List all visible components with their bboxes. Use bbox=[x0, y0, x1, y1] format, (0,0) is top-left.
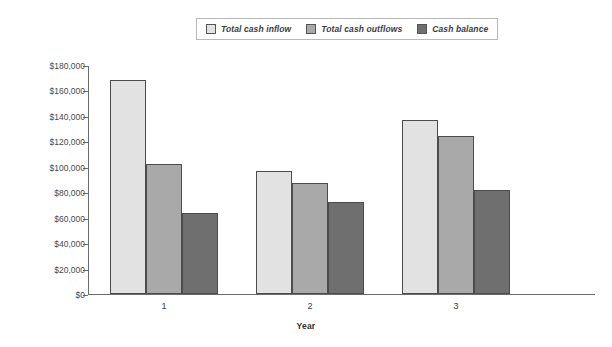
y-axis-tick-label: $60,000 bbox=[54, 214, 85, 224]
bar-series-0-year-1[interactable] bbox=[110, 80, 146, 294]
legend-swatch-icon-series-0 bbox=[206, 24, 216, 34]
y-axis-tick-label: $40,000 bbox=[54, 239, 85, 249]
legend-swatch-icon-series-1 bbox=[306, 24, 316, 34]
bar-group-year-3 bbox=[402, 63, 510, 294]
y-axis-tick-label: $80,000 bbox=[54, 188, 85, 198]
chart-legend: Total cash inflow Total cash outflows Ca… bbox=[196, 18, 498, 40]
y-axis-tick-label: $160,000 bbox=[50, 86, 85, 96]
legend-label-series-0: Total cash inflow bbox=[221, 24, 291, 34]
legend-item-total-cash-outflows: Total cash outflows bbox=[306, 24, 402, 34]
y-axis-tick-label: $180,000 bbox=[50, 61, 85, 71]
plot-area: $180,000$160,000$140,000$120,000$100,000… bbox=[88, 62, 595, 295]
y-axis-tick-label: $0 bbox=[76, 290, 85, 300]
bar-chart: Total cash inflow Total cash outflows Ca… bbox=[0, 0, 612, 347]
y-axis-tick-label: $120,000 bbox=[50, 137, 85, 147]
bar-series-2-year-1[interactable] bbox=[182, 213, 218, 294]
x-axis-tick-label-3: 3 bbox=[401, 301, 511, 311]
x-axis-tick-label-2: 2 bbox=[255, 301, 365, 311]
bar-series-0-year-2[interactable] bbox=[256, 171, 292, 294]
y-axis-line bbox=[88, 66, 89, 295]
x-axis-title: Year bbox=[0, 321, 612, 331]
legend-label-series-2: Cash balance bbox=[432, 24, 488, 34]
y-axis-tick-label: $100,000 bbox=[50, 163, 85, 173]
legend-label-series-1: Total cash outflows bbox=[321, 24, 402, 34]
bar-group-year-1 bbox=[110, 63, 218, 294]
bar-series-2-year-2[interactable] bbox=[328, 202, 364, 294]
y-axis-tick-label: $20,000 bbox=[54, 265, 85, 275]
legend-item-total-cash-inflow: Total cash inflow bbox=[206, 24, 291, 34]
x-axis-line bbox=[88, 294, 595, 295]
bar-group-year-2 bbox=[256, 63, 364, 294]
bar-series-2-year-3[interactable] bbox=[474, 190, 510, 294]
legend-swatch-icon-series-2 bbox=[417, 24, 427, 34]
bar-series-1-year-1[interactable] bbox=[146, 164, 182, 294]
x-axis-tick-label-1: 1 bbox=[109, 301, 219, 311]
bar-series-1-year-2[interactable] bbox=[292, 183, 328, 294]
y-axis-tick-label: $140,000 bbox=[50, 112, 85, 122]
bar-series-0-year-3[interactable] bbox=[402, 120, 438, 294]
legend-item-cash-balance: Cash balance bbox=[417, 24, 488, 34]
bar-series-1-year-3[interactable] bbox=[438, 136, 474, 294]
